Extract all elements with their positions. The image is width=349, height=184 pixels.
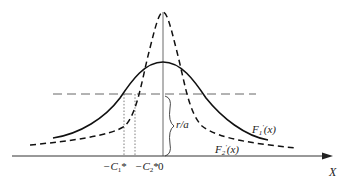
c1-tick-label: −C1* (103, 161, 127, 174)
brace-icon (165, 96, 174, 156)
c1-label-star: * (121, 160, 127, 172)
brace-label-text: r/a (176, 118, 189, 130)
c2-label-main: −C (135, 160, 150, 172)
x-axis-arrowhead-icon (322, 153, 333, 160)
f2-label-arg: (x) (227, 143, 239, 155)
f1-label-main: F (252, 123, 259, 135)
x-axis-label-text: X (329, 165, 336, 179)
brace-label: r/a (176, 119, 189, 130)
x-axis-label: X (329, 166, 336, 178)
c2-tick-label: −C2* (135, 161, 159, 174)
origin-label-text: 0 (158, 160, 164, 172)
f2-label-main: F (215, 143, 222, 155)
f2-label: F2′(x) (215, 144, 239, 157)
origin-label: 0 (158, 161, 164, 172)
f1-label-arg: (x) (264, 123, 276, 135)
f1-label: F1′(x) (252, 124, 276, 137)
c1-label-main: −C (103, 160, 118, 172)
density-comparison-chart (0, 0, 349, 184)
curve-f1 (53, 62, 268, 140)
